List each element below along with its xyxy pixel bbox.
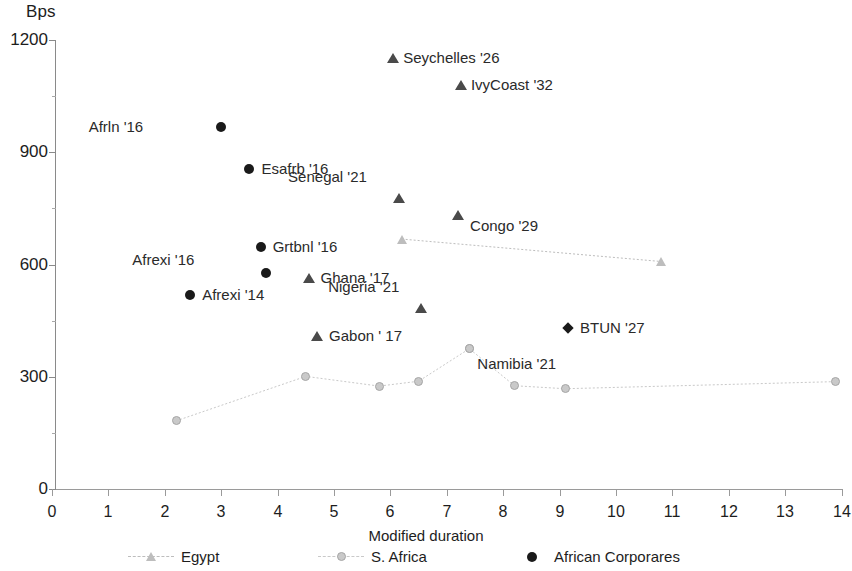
filled-circle-marker — [216, 122, 226, 132]
filled-circle-marker — [244, 164, 254, 174]
point-label: Grtbnl '16 — [273, 238, 338, 255]
triangle-marker — [387, 53, 399, 63]
filled-circle-marker — [261, 268, 271, 278]
triangle-marker — [455, 80, 467, 90]
markers-layer: Afrln '16Esafrb '16Grtbnl '16Afrexi '16A… — [0, 0, 852, 571]
gray-circle-marker — [561, 384, 570, 393]
legend-label-s-africa: S. Africa — [371, 548, 427, 565]
filled-circle-icon — [527, 552, 537, 562]
light-triangle-marker — [397, 235, 407, 244]
filled-circle-marker — [185, 290, 195, 300]
legend-item-african-corporares[interactable]: African Corporares — [517, 548, 680, 565]
legend-swatch-african-corporares — [517, 551, 547, 563]
chart-canvas: Bps Modified duration 1200 900 600 300 0… — [0, 0, 852, 571]
diamond-marker — [562, 322, 573, 333]
gray-circle-marker — [831, 377, 840, 386]
gray-circle-marker — [301, 372, 310, 381]
gray-circle-marker — [414, 377, 423, 386]
gray-circle-marker — [172, 416, 181, 425]
point-label: Afrexi '16 — [132, 251, 194, 268]
point-label: Afrln '16 — [89, 118, 144, 135]
point-label: BTUN '27 — [580, 319, 645, 336]
legend-label-egypt: Egypt — [181, 548, 219, 565]
gray-circle-marker — [465, 344, 474, 353]
triangle-marker — [452, 210, 464, 220]
triangle-marker — [303, 273, 315, 283]
point-label: Nigeria '21 — [328, 278, 399, 295]
circle-icon — [337, 552, 346, 561]
gray-circle-marker — [375, 382, 384, 391]
legend-label-african-corporares: African Corporares — [554, 548, 680, 565]
triangle-marker — [311, 331, 323, 341]
gray-circle-marker — [510, 381, 519, 390]
gray-circle-marker — [465, 344, 474, 353]
point-label: IvyCoast '32 — [471, 76, 553, 93]
legend-swatch-egypt — [128, 551, 174, 563]
triangle-icon — [146, 552, 156, 561]
chart-legend: Egypt S. Africa African Corporares — [0, 548, 852, 571]
filled-circle-marker — [256, 242, 266, 252]
legend-swatch-s-africa — [318, 551, 364, 563]
point-label: Senegal '21 — [288, 168, 367, 185]
triangle-marker — [393, 193, 405, 203]
point-label: Seychelles '26 — [403, 49, 499, 66]
point-label: Congo '29 — [470, 217, 538, 234]
legend-item-s-africa[interactable]: S. Africa — [318, 548, 427, 565]
light-triangle-marker — [656, 257, 666, 266]
point-label: Namibia '21 — [477, 355, 556, 372]
point-label: Afrexi '14 — [202, 286, 264, 303]
legend-item-egypt[interactable]: Egypt — [128, 548, 219, 565]
triangle-marker — [415, 303, 427, 313]
point-label: Gabon ' 17 — [329, 327, 402, 344]
